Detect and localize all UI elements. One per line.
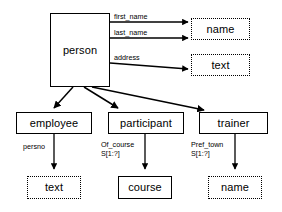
node-employee-label: employee	[30, 118, 79, 129]
node-name-top-label: name	[207, 24, 235, 35]
node-participant[interactable]: participant	[108, 112, 184, 134]
edge-label-pref-town: Pref_town S[1:?]	[191, 141, 223, 159]
node-trainer-label: trainer	[218, 118, 250, 129]
node-text-bottom[interactable]: text	[27, 176, 81, 199]
node-participant-label: participant	[120, 118, 172, 129]
node-name-bottom-label: name	[221, 182, 249, 193]
edge-label-of-course-cardinality: S[1:?]	[101, 150, 134, 159]
node-text-bottom-label: text	[45, 182, 63, 193]
edge-person-trainer	[92, 87, 204, 110]
edge-label-first-name: first_name	[114, 13, 148, 21]
edge-label-last-name: last_name	[114, 29, 147, 37]
node-person-label: person	[63, 45, 97, 56]
node-text-top-label: text	[211, 60, 229, 71]
node-name-top[interactable]: name	[191, 18, 250, 40]
node-name-bottom[interactable]: name	[208, 176, 262, 199]
edge-person-employee	[54, 87, 73, 108]
edge-person-address	[110, 63, 188, 69]
node-person[interactable]: person	[50, 13, 110, 87]
node-course-label: course	[128, 182, 162, 193]
node-trainer[interactable]: trainer	[199, 112, 268, 134]
node-employee[interactable]: employee	[16, 112, 92, 134]
node-course[interactable]: course	[118, 176, 172, 199]
edge-label-of-course: Of_course S[1:?]	[101, 141, 134, 159]
edge-person-participant	[84, 87, 118, 108]
diagram-canvas: person name text employee participant tr…	[0, 0, 282, 212]
edge-label-pref-town-cardinality: S[1:?]	[191, 150, 223, 159]
edge-label-persno: persno	[23, 143, 45, 151]
node-text-top[interactable]: text	[191, 54, 250, 76]
edge-label-address: address	[114, 54, 140, 62]
